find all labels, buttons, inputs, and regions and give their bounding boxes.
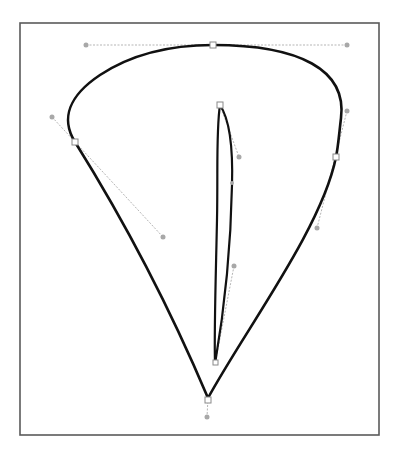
top-right-handle-dot-icon[interactable]: [345, 43, 350, 48]
bezier-path-illustration: [0, 0, 404, 456]
top-left-handle-dot-icon[interactable]: [84, 43, 89, 48]
bottom-handle-dot-icon[interactable]: [205, 415, 210, 420]
inner-top-handle-dot-icon[interactable]: [237, 155, 242, 160]
left-lower-handle-dot-icon[interactable]: [161, 235, 166, 240]
bottom-anchor-point-icon[interactable]: [205, 397, 211, 403]
right-upper-handle-dot-icon[interactable]: [345, 109, 350, 114]
inner-mid-handle-dot-icon[interactable]: [230, 181, 234, 185]
right-anchor-point-icon[interactable]: [333, 154, 339, 160]
right-lower-handle-dot-icon[interactable]: [315, 226, 320, 231]
inner-lower-handle-dot-icon[interactable]: [232, 264, 237, 269]
inner-top-anchor-point-icon[interactable]: [217, 102, 223, 108]
left-anchor-point-icon[interactable]: [72, 139, 78, 145]
top-anchor-point-icon[interactable]: [210, 42, 216, 48]
left-upper-handle-dot-icon[interactable]: [50, 115, 55, 120]
inner-bottom-anchor-point-icon[interactable]: [213, 360, 218, 365]
artboard-frame: [20, 23, 379, 435]
